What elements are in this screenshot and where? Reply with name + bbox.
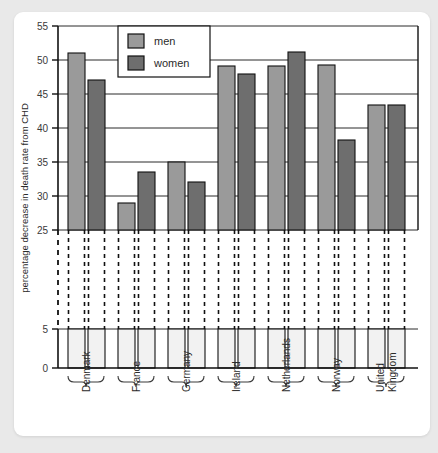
ytick-label-0: 0 (42, 363, 48, 374)
bar-upper (268, 66, 285, 230)
bar-upper (138, 172, 155, 230)
bar-denmark-men (68, 53, 85, 368)
bar-france-women (138, 172, 155, 368)
ytick-label-45: 45 (37, 89, 49, 100)
category-label-netherlands: Netherlands (281, 338, 292, 392)
chart-page: 55 50 45 40 35 30 25 5 0 percentage decr… (0, 0, 438, 453)
bar-upper (218, 66, 235, 230)
category-label-germany: Germany (181, 351, 192, 392)
y-tick-labels: 55 50 45 40 35 30 25 5 0 (37, 21, 49, 374)
bar-upper (88, 80, 105, 230)
bar-ireland-women (238, 74, 255, 368)
ytick-label-50: 50 (37, 55, 49, 66)
category-label-united-kingdom-line2: Kingdom (387, 353, 398, 392)
legend-label-men: men (154, 35, 175, 47)
legend-swatch-men (128, 34, 144, 48)
y-axis-title: percentage decrease in death rate from C… (19, 103, 30, 293)
brace-united-kingdom (368, 376, 404, 387)
bar-chart: 55 50 45 40 35 30 25 5 0 percentage decr… (0, 0, 438, 453)
bar-norway-men (318, 65, 335, 368)
category-label-denmark: Denmark (81, 350, 92, 392)
bars (68, 52, 405, 368)
ytick-label-55: 55 (37, 21, 49, 32)
bar-upper (388, 105, 405, 230)
bar-upper (288, 52, 305, 230)
legend-swatch-women (128, 56, 144, 70)
category-label-norway: Norway (331, 358, 342, 392)
legend: men women (118, 26, 210, 77)
ytick-label-5: 5 (42, 324, 48, 335)
bar-norway-women (338, 140, 355, 368)
category-label-france: France (131, 360, 142, 392)
bar-upper (118, 203, 135, 230)
legend-label-women: women (153, 57, 189, 69)
ytick-label-40: 40 (37, 123, 49, 134)
bar-netherlands-men (268, 66, 285, 368)
ytick-label-35: 35 (37, 157, 49, 168)
bar-upper (318, 65, 335, 230)
bar-united-kingdom-men (368, 105, 385, 368)
bar-upper (238, 74, 255, 230)
bar-france-men (118, 203, 135, 368)
bar-upper (188, 182, 205, 230)
bar-united-kingdom-women (388, 105, 405, 368)
bar-ireland-men (218, 66, 235, 368)
bar-netherlands-women (288, 52, 305, 368)
category-label-ireland: Ireland (231, 361, 242, 392)
bar-upper (338, 140, 355, 230)
ytick-label-30: 30 (37, 191, 49, 202)
bar-germany-women (188, 182, 205, 368)
bar-upper (168, 162, 185, 230)
bar-upper (68, 53, 85, 230)
bar-foot (368, 329, 385, 368)
y-ticks (52, 26, 58, 368)
category-label-united-kingdom-line1: United (375, 363, 386, 392)
ytick-label-25: 25 (37, 225, 49, 236)
bar-upper (368, 105, 385, 230)
bar-denmark-women (88, 80, 105, 368)
bar-germany-men (168, 162, 185, 368)
